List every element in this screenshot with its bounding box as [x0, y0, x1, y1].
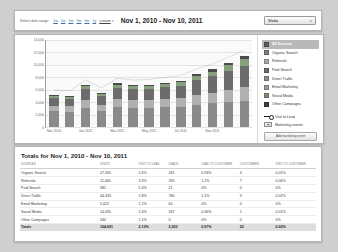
date-range-option-6m[interactable]: 6m: [84, 19, 89, 23]
legend-item-label: All Sources: [272, 42, 292, 46]
cell-visit_to_customer: 0%: [275, 216, 317, 224]
cell-customers: 4: [239, 169, 275, 177]
metric-select[interactable]: Visits ▾: [264, 16, 316, 25]
legend-item-label: Paid Search: [272, 68, 292, 72]
cell-source: Totals: [20, 223, 99, 230]
cell-visit_to_lead: 5.4%: [138, 185, 168, 193]
table-row[interactable]: Direct Traffic44,3331.8%7801.1%90.02%: [20, 192, 316, 200]
cell-visit_to_lead: 1.8%: [138, 192, 168, 200]
cell-lead_to_customer: 1.1%: [200, 192, 239, 200]
date-range-toolbar: Select date range: 1w2w1m3m6m1ycustom ▾ …: [14, 10, 322, 31]
legend-visit-to-lead[interactable]: Visit to Lead: [262, 113, 319, 121]
legend-marketing-events[interactable]: ⚑ Marketing events: [262, 121, 319, 129]
cell-visits: 27,565: [99, 169, 138, 177]
cell-source: Paid Search: [20, 185, 99, 193]
x-axis-tick-label: Nov 2010: [47, 129, 62, 133]
date-range-option-custom[interactable]: custom: [99, 19, 111, 23]
cell-customers: 1: [239, 208, 275, 216]
cell-visits: 382: [99, 185, 138, 193]
x-axis-tick-label: Jan 2011: [79, 129, 93, 133]
legend-item-direct-traffic[interactable]: Direct Traffic: [262, 74, 319, 83]
legend-item-label: Direct Traffic: [272, 77, 293, 81]
cell-visit_to_lead: 3.3%: [138, 177, 168, 185]
table-row[interactable]: Paid Search3825.4%210%00%: [20, 185, 316, 193]
chart-legend: All SourcesOrganic SearchReferralsPaid S…: [257, 35, 323, 143]
totals-table: SourcesVisitsVisit to LeadLeadsLead to C…: [20, 163, 316, 231]
legend-item-social-media[interactable]: Social Media: [262, 92, 319, 101]
cell-leads: 21: [168, 185, 201, 193]
cell-visit_to_customer: 0.02%: [275, 192, 317, 200]
table-row[interactable]: Organic Search27,5651.6%4310.93%40.01%: [20, 169, 316, 177]
legend-item-paid-search[interactable]: Paid Search: [262, 66, 319, 75]
legend-item-all-sources[interactable]: All Sources: [262, 40, 319, 49]
cell-lead_to_customer: 0%: [200, 200, 239, 208]
cell-visit_to_customer: 0.01%: [275, 208, 317, 216]
x-axis-tick-label: Mar 2011: [110, 129, 124, 133]
date-range-option-1w[interactable]: 1w: [53, 19, 58, 23]
legend-swatch-icon: [264, 59, 269, 64]
add-marketing-event-label: Add marketing event: [276, 134, 305, 138]
cell-leads: 64: [168, 200, 201, 208]
x-axis-tick-label: May 2011: [142, 129, 157, 133]
cell-lead_to_customer: 0.93%: [200, 169, 239, 177]
traffic-chart-panel: 02,0004,0006,0008,00010,00012,00014,000 …: [14, 34, 324, 144]
legend-item-organic-search[interactable]: Organic Search: [262, 49, 319, 58]
table-row[interactable]: Other Campaigns3401.1%00%00%: [20, 216, 316, 224]
analytics-dashboard: Select date range: 1w2w1m3m6m1ycustom ▾ …: [0, 0, 338, 252]
cell-customers: 22: [239, 223, 275, 230]
flag-icon: ⚑: [264, 122, 272, 127]
date-range-option-3m[interactable]: 3m: [76, 19, 81, 23]
y-axis-tick-label: 2,000: [36, 113, 45, 117]
y-axis-tick-label: 8,000: [36, 76, 45, 80]
cell-visit_to_lead: 2.4%: [138, 208, 168, 216]
chevron-down-icon: ▾: [310, 19, 312, 23]
cell-source: Social Media: [20, 208, 99, 216]
legend-swatch-icon: [264, 102, 269, 107]
y-axis-tick-label: 12,000: [34, 51, 44, 55]
gridline: 0: [46, 127, 252, 128]
cell-leads: 2,203: [168, 223, 201, 230]
table-row[interactable]: Totals104,6912.13%2,2030.97%220.02%: [20, 223, 316, 230]
legend-item-referrals[interactable]: Referrals: [262, 57, 319, 66]
date-range-option-1m[interactable]: 1m: [68, 19, 73, 23]
cell-source: Direct Traffic: [20, 192, 99, 200]
y-axis-tick-label: 4,000: [36, 101, 45, 105]
add-marketing-event-button[interactable]: Add marketing event: [264, 132, 317, 141]
cell-leads: 431: [168, 169, 201, 177]
legend-item-email-marketing[interactable]: Email Marketing: [262, 83, 319, 92]
table-row[interactable]: Referrals11,4603.3%3351.2%70.06%: [20, 177, 316, 185]
table-row[interactable]: Social Media14,6352.4%3470.36%10.01%: [20, 208, 316, 216]
cell-visit_to_lead: 1.1%: [138, 216, 168, 224]
legend-swatch-icon: [264, 76, 269, 81]
cell-visit_to_customer: 0.01%: [275, 169, 317, 177]
chart-canvas: 02,0004,0006,0008,00010,00012,00014,000 …: [45, 40, 252, 128]
legend-item-label: Other Campaigns: [272, 102, 301, 106]
legend-swatch-icon: [264, 85, 269, 90]
cell-lead_to_customer: 0.97%: [200, 223, 239, 230]
date-range-option-1y[interactable]: 1y: [92, 19, 96, 23]
cell-customers: 7: [239, 177, 275, 185]
legend-item-label: Referrals: [272, 59, 287, 63]
cell-customers: 0: [239, 185, 275, 193]
chart-plot-area: 02,0004,0006,0008,00010,00012,00014,000 …: [15, 35, 257, 143]
cell-lead_to_customer: 0.36%: [200, 208, 239, 216]
cell-leads: 347: [168, 208, 201, 216]
date-range-label: Select date range:: [20, 19, 49, 23]
cell-visits: 104,691: [99, 223, 138, 230]
date-range-option-2w[interactable]: 2w: [61, 19, 66, 23]
legend-swatch-icon: [264, 42, 269, 47]
date-range-options: 1w2w1m3m6m1ycustom: [53, 19, 111, 23]
cell-visits: 340: [99, 216, 138, 224]
legend-item-label: Social Media: [272, 94, 293, 98]
cell-visits: 44,333: [99, 192, 138, 200]
cell-visit_to_lead: 1.2%: [138, 200, 168, 208]
cell-source: Referrals: [20, 177, 99, 185]
cell-visit_to_lead: 1.6%: [138, 169, 168, 177]
legend-visit-to-lead-label: Visit to Lead: [275, 115, 295, 119]
legend-item-other-campaigns[interactable]: Other Campaigns: [262, 100, 319, 109]
totals-panel: Totals for Nov 1, 2010 - Nov 10, 2011 So…: [14, 146, 322, 242]
table-row[interactable]: Email Marketing5,0221.2%640%00%: [20, 200, 316, 208]
cell-visit_to_customer: 0.06%: [275, 177, 317, 185]
table-body: Organic Search27,5651.6%4310.93%40.01%Re…: [20, 169, 316, 231]
chevron-down-icon[interactable]: ▾: [112, 19, 114, 23]
